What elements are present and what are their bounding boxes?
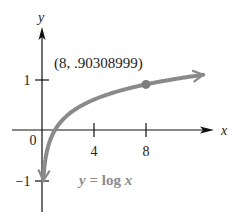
y-tick-label-1: 1 <box>24 73 31 88</box>
y-axis-label: y <box>36 10 45 25</box>
log-chart: y x 1 −1 0 4 8 (8, .90308999) y = log x <box>0 0 244 222</box>
x-tick-label-4: 4 <box>91 144 98 159</box>
point-annotation: (8, .90308999) <box>54 55 143 72</box>
point-marker <box>142 80 151 89</box>
log-curve <box>43 75 203 181</box>
x-tick-label-8: 8 <box>143 144 150 159</box>
function-label: y = log x <box>77 172 133 188</box>
y-tick-label-neg1: −1 <box>16 174 31 189</box>
origin-label: 0 <box>30 133 37 148</box>
x-axis-label: x <box>220 123 228 138</box>
